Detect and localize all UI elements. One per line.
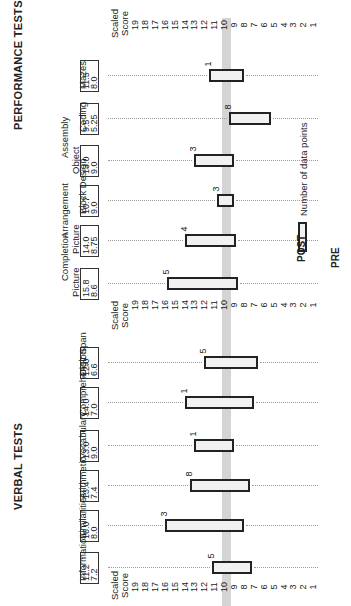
- axis-tick: 2: [298, 298, 308, 312]
- guide-dots: [108, 485, 188, 486]
- pre-value: 9.0: [90, 446, 99, 459]
- guide-dots: [108, 402, 183, 403]
- guide-dots: [108, 283, 165, 284]
- axis-tick: 4: [279, 580, 289, 594]
- axis-tick: 10: [219, 580, 229, 594]
- test-name: Comprehension: [77, 349, 88, 416]
- axis-tick: 10: [219, 298, 229, 312]
- axis-tick: 2: [298, 580, 308, 594]
- legend-pre-label: PRE: [330, 247, 341, 268]
- axis-tick: 12: [199, 298, 209, 312]
- axis-tick: 3: [288, 298, 298, 312]
- guide-dots: [108, 525, 163, 526]
- data-point-count: 8: [184, 471, 194, 476]
- axis-title-line2: Score: [120, 301, 130, 330]
- data-point-count: 3: [188, 146, 198, 151]
- axis-tick: 9: [229, 298, 239, 312]
- pre-value: 7.4: [90, 486, 99, 499]
- data-point-count: 1: [203, 61, 213, 66]
- data-point-count: 1: [178, 388, 188, 393]
- axis-tick: 10: [219, 18, 229, 32]
- guide-dots: [252, 485, 318, 486]
- pre-value: 9.0: [90, 161, 99, 174]
- pre-post-bar: [204, 356, 257, 369]
- pre-post-bar: [167, 277, 238, 290]
- pre-value: 8.6: [90, 284, 99, 297]
- guide-dots: [254, 567, 318, 568]
- guide-dots: [108, 75, 207, 76]
- axis-tick: 2: [298, 18, 308, 32]
- guide-dots: [236, 445, 318, 446]
- pre-post-bar: [165, 519, 244, 532]
- pre-post-bar: [190, 479, 249, 492]
- test-name-line2: Arrangement: [59, 183, 70, 238]
- axis-tick: 11: [209, 18, 219, 32]
- axis-tick: 9: [229, 580, 239, 594]
- axis-tick: 7: [249, 298, 259, 312]
- test-name-line2: Assembly: [59, 117, 70, 158]
- pre-post-bar: [194, 154, 234, 167]
- pre-value: 8.75: [90, 236, 99, 254]
- legend-count-label: Number of data points: [298, 123, 309, 216]
- axis-title-top: Scaled Score: [110, 9, 130, 38]
- verbal-tests-title: VERBAL TESTS: [12, 423, 24, 510]
- axis-tick: 5: [269, 298, 279, 312]
- test-name: Coding: [77, 102, 88, 132]
- axis-tick: 15: [170, 18, 180, 32]
- axis-title-line2: Score: [120, 9, 130, 38]
- performance-tests-title: PERFORMANCE TESTS: [12, 0, 24, 130]
- legend-post-label: POST: [296, 235, 307, 262]
- axis-tick: 19: [130, 18, 140, 32]
- pre-post-bar: [212, 561, 252, 574]
- pre-post-bar: [185, 234, 237, 247]
- guide-dots: [108, 240, 183, 241]
- data-point-count: 8: [223, 104, 233, 109]
- test-name: Similarities: [77, 493, 88, 539]
- post-pre-value-box: 15.88.6: [80, 268, 99, 300]
- pre-post-bar: [185, 396, 254, 409]
- pre-value: 5.25: [90, 114, 99, 132]
- guide-dots: [260, 362, 318, 363]
- test-name: Information: [77, 533, 88, 581]
- axis-tick: 16: [160, 580, 170, 594]
- axis-tick: 14: [180, 298, 190, 312]
- axis-tick: 18: [140, 580, 150, 594]
- pre-post-bar: [217, 194, 234, 207]
- pre-value: 7.0: [90, 403, 99, 416]
- axis-title-bottom: Scaled Score: [110, 571, 130, 600]
- axis-tick: 1: [308, 580, 318, 594]
- guide-dots: [240, 283, 318, 284]
- pre-post-bar: [209, 69, 244, 82]
- axis-tick: 18: [140, 18, 150, 32]
- axis-tick: 17: [150, 580, 160, 594]
- axis-tick: 13: [189, 18, 199, 32]
- pre-value: 8.0: [90, 76, 99, 89]
- axis-tick: 16: [160, 18, 170, 32]
- axis-tick: 8: [239, 18, 249, 32]
- pre-value: 7.2: [90, 568, 99, 581]
- axis-tick: 19: [130, 580, 140, 594]
- test-name: Mazes: [77, 61, 88, 89]
- axis-tick: 16: [160, 298, 170, 312]
- guide-dots: [273, 118, 318, 119]
- data-point-count: 5: [198, 348, 208, 353]
- axis-tick: 13: [189, 298, 199, 312]
- data-point-count: 3: [211, 186, 221, 191]
- axis-tick: 5: [269, 18, 279, 32]
- guide-dots: [108, 445, 192, 446]
- data-point-count: 5: [206, 553, 216, 558]
- axis-tick: 8: [239, 580, 249, 594]
- axis-tick: 6: [259, 580, 269, 594]
- axis-tick: 6: [259, 298, 269, 312]
- pre-post-bar: [194, 439, 234, 452]
- axis-tick: 8: [239, 298, 249, 312]
- data-point-count: 5: [160, 269, 170, 274]
- test-name-line2: Completion: [59, 233, 70, 281]
- axis-tick: 4: [279, 298, 289, 312]
- axis-tick: 9: [229, 18, 239, 32]
- axis-tick: 12: [199, 18, 209, 32]
- axis-tick: 11: [209, 580, 219, 594]
- pre-post-bar: [229, 112, 271, 125]
- guide-dots: [108, 200, 215, 201]
- axis-tick: 15: [170, 298, 180, 312]
